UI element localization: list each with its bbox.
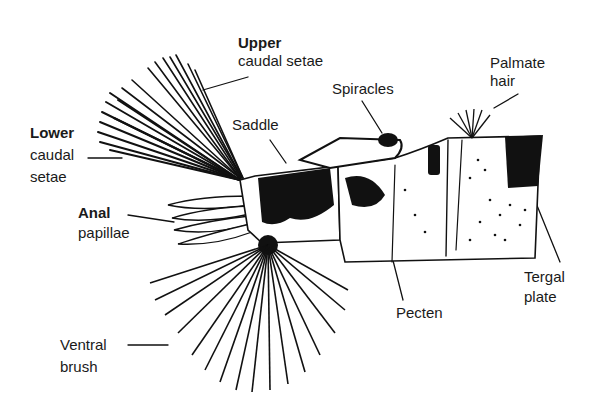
label-palmate-hair-1: Palmate xyxy=(490,54,545,72)
palmate-hair xyxy=(450,109,490,138)
label-anal-papillae-2: papillae xyxy=(78,224,130,242)
label-lower-caudal-setae-3: setae xyxy=(30,168,67,186)
label-ventral-brush-2: brush xyxy=(60,358,98,376)
anal-papillae xyxy=(168,196,252,244)
ventral-brush xyxy=(150,245,348,392)
label-lower-caudal-setae-1: Lower xyxy=(30,124,74,142)
label-ventral-brush-1: Ventral xyxy=(60,336,107,354)
label-spiracles: Spiracles xyxy=(332,80,394,98)
label-upper-caudal-setae-1: Upper xyxy=(238,34,281,52)
label-palmate-hair-2: hair xyxy=(490,72,515,90)
label-pecten: Pecten xyxy=(396,304,443,322)
label-tergal-plate-1: Tergal xyxy=(524,268,565,286)
tergal-plate xyxy=(505,135,543,188)
label-lower-caudal-setae-2: caudal xyxy=(30,146,74,164)
label-upper-caudal-setae-2: caudal setae xyxy=(238,52,323,70)
lower-caudal-setae xyxy=(98,93,240,180)
label-tergal-plate-2: plate xyxy=(524,288,557,306)
label-anal-papillae-1: Anal xyxy=(78,204,111,222)
label-saddle: Saddle xyxy=(232,116,279,134)
